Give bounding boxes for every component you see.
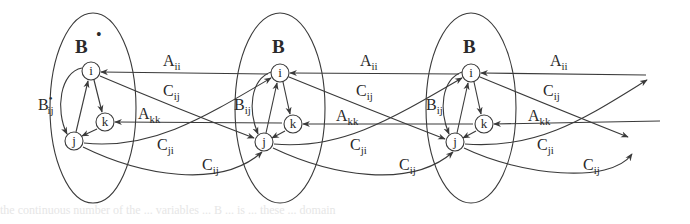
label-C-ij-2: Cij (356, 82, 373, 102)
edge-k-to-j-3 (463, 131, 476, 138)
node-j-label: j (452, 134, 457, 149)
label-C-ji-3: Cji (537, 136, 554, 156)
node-i-label: i (469, 65, 473, 80)
cluster-1-title: B (75, 36, 88, 57)
label-A-ii-1: Aii (163, 52, 181, 72)
edge-A-kk-3 (494, 121, 660, 124)
edge-i-to-k-1 (94, 80, 102, 112)
label-A-kk-3: Akk (528, 107, 551, 127)
edge-A-kk-1 (115, 122, 282, 123)
label-A-ii-3: Aii (550, 52, 568, 72)
label-C-ij-curved-1: Cij (202, 156, 219, 176)
cluster-2-title: B (272, 36, 285, 57)
node-j-label: j (261, 134, 266, 149)
node-k-label: k (102, 114, 109, 129)
label-A-ii-2: Aii (360, 52, 378, 72)
edge-j-to-i-3 (457, 83, 468, 133)
edge-A-ii-2 (290, 73, 459, 74)
edge-k-to-j-2 (272, 131, 285, 138)
label-C-ij-1: Cij (163, 82, 180, 102)
B-ij-label-1: B•ij (38, 92, 54, 116)
node-k-label: k (290, 116, 297, 131)
edge-j-to-i-1 (76, 81, 88, 132)
node-j-label: j (71, 133, 76, 148)
cluster-1-ellipse (50, 13, 136, 203)
edge-B-ij-1 (61, 68, 82, 134)
bleed-through-text: the continuous number of the ... variabl… (0, 203, 690, 218)
B-ij-label-2: Bij (234, 96, 251, 116)
cluster-3-title: B (463, 36, 476, 57)
B-ij-label-3: Bij (426, 96, 443, 116)
cluster-1-nodes: i k j (65, 62, 114, 150)
layered-graph-diagram: i k j i k j i k j B • B B B•ij Bij Bij A… (0, 0, 690, 224)
edge-C-ij-straight-3 (480, 77, 628, 137)
edge-i-to-k-2 (283, 82, 290, 114)
node-i-label: i (278, 65, 282, 80)
label-C-ij-3: Cij (543, 82, 560, 102)
label-C-ji-2: Cji (350, 136, 367, 156)
edge-j-to-i-2 (266, 83, 277, 133)
cluster-1-title-superscript: • (96, 26, 102, 43)
label-C-ji-1: Cji (157, 136, 174, 156)
node-k-label: k (481, 116, 488, 131)
edge-k-to-j-1 (82, 129, 97, 136)
node-i-label: i (89, 63, 93, 78)
edge-C-ij-straight-2 (289, 77, 445, 139)
edge-i-to-k-3 (474, 82, 481, 114)
edge-A-ii-1 (101, 72, 268, 74)
edge-A-ii-3 (481, 73, 646, 75)
